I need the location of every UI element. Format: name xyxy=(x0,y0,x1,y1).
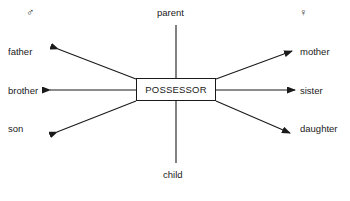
arrow-daughter xyxy=(216,101,290,133)
label-child: child xyxy=(163,170,183,180)
label-daughter: daughter xyxy=(300,124,338,134)
kinship-diagram: ♂ ♀ parent child father brother son moth… xyxy=(0,0,350,201)
male-gender-icon: ♂ xyxy=(26,7,34,18)
female-gender-icon: ♀ xyxy=(299,7,307,18)
possessor-node-label: POSSESSOR xyxy=(145,84,206,95)
label-parent: parent xyxy=(157,8,184,18)
label-son: son xyxy=(8,124,23,134)
arrow-son xyxy=(57,101,136,132)
label-sister: sister xyxy=(300,86,323,96)
label-father: father xyxy=(8,47,32,57)
possessor-node: POSSESSOR xyxy=(136,78,216,101)
label-mother: mother xyxy=(300,47,330,57)
arrow-mother xyxy=(216,51,292,79)
arrow-father xyxy=(58,49,136,79)
label-brother: brother xyxy=(8,86,38,96)
